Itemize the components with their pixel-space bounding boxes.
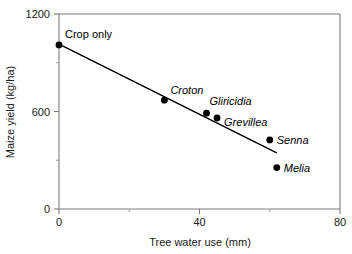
chart-figure: 06001200 04080 Crop onlyCrotonGliricidia… [0, 0, 352, 254]
data-point-label-senna: Senna [277, 134, 309, 146]
data-point-label-croton: Croton [170, 84, 203, 96]
data-point-gliricidia [203, 110, 210, 117]
data-point-grevillea [214, 115, 221, 122]
x-axis-title: Tree water use (mm) [149, 236, 251, 248]
x-tick-label: 40 [193, 216, 205, 228]
x-axis-ticks [59, 209, 340, 214]
y-tick-label: 0 [44, 203, 50, 215]
data-point-label-crop-only: Crop only [65, 28, 113, 40]
x-tick-label: 80 [334, 216, 346, 228]
y-tick-label: 1200 [26, 8, 50, 20]
maize-yield-vs-tree-water-use-scatter-chart: 06001200 04080 Crop onlyCrotonGliricidia… [0, 0, 352, 254]
x-axis-tick-labels: 04080 [56, 216, 346, 228]
y-tick-label: 600 [32, 106, 50, 118]
data-point-croton [161, 97, 168, 104]
data-point-label-grevillea: Grevillea [224, 116, 267, 128]
x-tick-label: 0 [56, 216, 62, 228]
data-point-crop-only [56, 41, 63, 48]
data-point-label-gliricidia: Gliricidia [210, 95, 252, 107]
data-point-melia [273, 164, 280, 171]
plot-frame [59, 14, 340, 209]
data-point-senna [266, 137, 273, 144]
y-axis-tick-labels: 06001200 [26, 8, 50, 215]
y-axis-title: Maize yield (kg/ha) [4, 66, 16, 158]
data-point-label-melia: Melia [284, 162, 310, 174]
